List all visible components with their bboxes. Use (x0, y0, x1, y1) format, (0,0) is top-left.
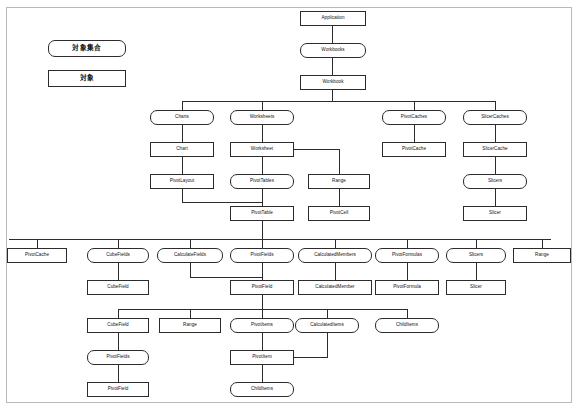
edge-slicers-slicer (495, 189, 496, 206)
edge-bus-cubefields (118, 239, 119, 248)
node-calculatedmembers: CalculatedMembers (298, 248, 372, 263)
node-slicercaches: SlicerCaches (463, 110, 527, 125)
node-cubefields: CubeFields (87, 248, 149, 263)
edge-cubefields-cubefield (118, 263, 119, 280)
node-chart: Chart (150, 142, 214, 157)
edge-pivotlayout-pivottable-h (182, 202, 263, 203)
node-pivotfields-row: PivotFields (230, 248, 294, 263)
edge-bus-calculatedmembers (335, 239, 336, 248)
edge-slicers-slicer-row (476, 263, 477, 280)
edge-bus-slicercaches (495, 101, 496, 110)
edge-calculateditems-pivotitem-h (294, 357, 328, 358)
edge-bus-worksheets (262, 101, 263, 110)
edge-pivotfield-lowbus (262, 295, 263, 309)
diagram-frame (6, 7, 572, 403)
legend-object-box: 対象 (48, 70, 126, 87)
node-pivotfields-low: PivotFields (87, 350, 149, 365)
edge-lowbus-cubefield (118, 309, 119, 318)
edge-bus-pivotcaches (414, 101, 415, 110)
node-pivotitems: PivotItems (230, 318, 294, 333)
node-slicers-right: Slicers (463, 174, 527, 189)
edge-pivotfields-pivotfield-low (118, 365, 119, 382)
edge-cubefield-pivotfields (118, 333, 119, 350)
node-pivotcache-top: PivotCache (382, 142, 446, 157)
edge-lowbus-childitems (407, 309, 408, 318)
node-worksheets: Worksheets (230, 110, 294, 125)
node-range-mid: Range (308, 174, 370, 189)
edge-calculateditems-down (327, 333, 328, 357)
edge-calculatefields-pivotfield-h (190, 277, 263, 278)
node-calculatedmember: CalculatedMember (298, 280, 372, 295)
edge-application-workbooks (332, 26, 333, 43)
edge-pivotitem-childitems (262, 365, 263, 382)
edge-calculatefields-down (190, 263, 191, 277)
legend-object-label: 対象 (80, 75, 95, 82)
node-slicercache: SlicerCache (463, 142, 527, 157)
node-pivotcaches: PivotCaches (382, 110, 446, 125)
edge-worksheets-worksheet (262, 125, 263, 142)
node-pivottables: PivotTables (230, 174, 294, 189)
edge-bus-charts (182, 101, 183, 110)
edge-lowbus-pivotitems (262, 309, 263, 318)
edge-pivottables-pivottable (262, 189, 263, 206)
node-pivotitem: PivotItem (230, 350, 294, 365)
edge-pivotitems-pivotitem (262, 333, 263, 350)
edge-workbook-down (332, 90, 333, 101)
node-pivotformula: PivotFormula (375, 280, 439, 295)
edge-lowbus-range (190, 309, 191, 318)
edge-bus-slicers-row (476, 239, 477, 248)
node-slicer-right: Slicer (463, 206, 527, 221)
node-slicers-row: Slicers (446, 248, 506, 263)
edge-bus-range-row (542, 239, 543, 248)
edge-bus-calculatefields (190, 239, 191, 248)
edge-pivotfields-pivotfield (262, 263, 263, 280)
edge-slicercaches-slicercache (495, 125, 496, 142)
node-workbook: Workbook (300, 75, 366, 90)
edge-bus-pivotformulas (407, 239, 408, 248)
node-pivottable: PivotTable (230, 206, 294, 221)
legend-collection-label: 対象集合 (72, 45, 102, 52)
edge-pivottable-bus (262, 221, 263, 239)
node-application: Application (300, 11, 366, 26)
node-pivotfield-row: PivotField (230, 280, 294, 295)
edge-bus-pivotcache-row (37, 239, 38, 248)
edge-pivotformulas-formula (407, 263, 408, 280)
node-pivotcell: PivotCell (308, 206, 370, 221)
edge-lowbus-calculateditems (327, 309, 328, 318)
node-slicer-row: Slicer (446, 280, 506, 295)
node-cubefield-a: CubeField (87, 280, 149, 295)
edge-range-pivotcell (339, 189, 340, 206)
edge-workbooks-workbook (332, 58, 333, 75)
diagram-canvas: 対象集合 対象 Application Workbooks Workbook C… (0, 0, 582, 412)
legend-collection-box: 対象集合 (48, 40, 126, 57)
edge-chart-pivotlayout (182, 157, 183, 174)
node-calculatefields: CalculateFields (157, 248, 223, 263)
edge-worksheet-range-v (339, 149, 340, 174)
node-workbooks: Workbooks (300, 43, 366, 58)
node-childitems-low: ChildItems (230, 382, 294, 397)
edge-pivotlayout-down (182, 189, 183, 202)
edge-slicercache-slicers (495, 157, 496, 174)
node-range-low: Range (159, 318, 221, 333)
edge-charts-chart (182, 125, 183, 142)
node-pivotfield-low: PivotField (87, 382, 149, 397)
node-charts: Charts (150, 110, 214, 125)
bus-workbook (182, 101, 495, 102)
node-pivotformulas: PivotFormulas (375, 248, 439, 263)
node-pivotcache-row: PivotCache (7, 248, 67, 263)
node-worksheet: Worksheet (230, 142, 294, 157)
edge-bus-pivotfields (262, 239, 263, 248)
node-pivotlayout: PivotLayout (150, 174, 214, 189)
edge-pivotcaches-pivotcache (414, 125, 415, 142)
node-cubefield-b: CubeField (87, 318, 149, 333)
edge-worksheet-pivottables (262, 157, 263, 174)
bus-pivottable (9, 239, 551, 240)
edge-calculatedmembers-member (335, 263, 336, 280)
node-range-row: Range (513, 248, 571, 263)
node-childitems-right: ChildItems (375, 318, 439, 333)
node-calculateditems: CalculatedItems (295, 318, 359, 333)
